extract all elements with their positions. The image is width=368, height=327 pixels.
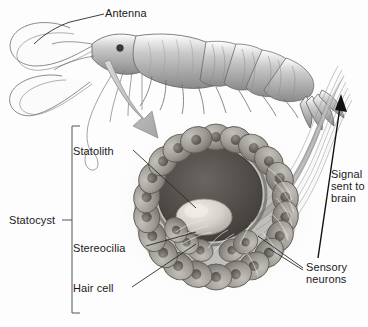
label-hair-cell: Hair cell [73, 282, 114, 295]
label-statocyst: Statocyst [9, 214, 55, 227]
label-sensory-neurons: Sensory neurons [306, 261, 347, 285]
statocyst-figure: Antenna Statolith Statocyst Stereocilia … [0, 0, 368, 327]
label-antenna: Antenna [105, 7, 147, 20]
label-statolith: Statolith [73, 145, 114, 158]
label-stereocilia: Stereocilia [73, 242, 125, 255]
label-signal-sent-to-brain: Signal sent to brain [331, 168, 365, 204]
